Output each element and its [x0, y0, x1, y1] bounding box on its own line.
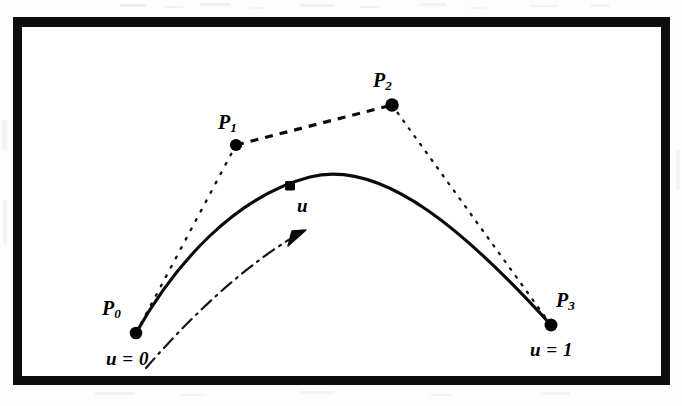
parameter-direction-arc — [146, 233, 300, 368]
control-polygon-segment-p2-p3 — [392, 105, 551, 325]
label-u-equals-one: u = 1 — [530, 340, 573, 359]
bezier-diagram-svg — [0, 0, 682, 406]
label-u-parameter: u — [297, 196, 308, 215]
control-point-p3 — [545, 319, 558, 332]
control-polygon-segment-p0-p1 — [136, 145, 236, 333]
parameter-direction-arrowhead — [288, 230, 306, 246]
label-p1: P1 — [218, 112, 237, 135]
label-p2: P2 — [373, 70, 392, 93]
label-p0: P0 — [102, 298, 121, 321]
bezier-curve — [136, 174, 551, 333]
figure-root: P0 P1 P2 P3 u u = 0 u = 1 — [0, 0, 682, 406]
control-point-p2 — [385, 98, 399, 112]
figure-canvas: P0 P1 P2 P3 u u = 0 u = 1 — [0, 0, 682, 406]
label-p3: P3 — [556, 290, 575, 313]
control-polygon-segment-p1-p2 — [236, 105, 392, 145]
control-point-p0 — [130, 327, 143, 340]
control-point-p1 — [230, 139, 242, 151]
label-u-equals-zero: u = 0 — [106, 349, 149, 368]
curve-point-u — [285, 181, 295, 191]
